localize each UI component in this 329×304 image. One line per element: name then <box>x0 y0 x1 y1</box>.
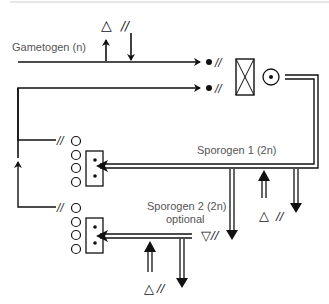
gametogen-arrow-bottom <box>18 88 200 158</box>
fusion-box <box>236 59 254 95</box>
double-slash-icon: // <box>120 19 131 33</box>
triangle-down-icon: ▽ <box>201 228 211 243</box>
svg-text://: // <box>56 135 65 146</box>
sporogen1-down-arrow-right <box>290 169 302 213</box>
gametogen-label: Gametogen (n) <box>12 41 86 53</box>
sporogen1-down-arrow-left <box>226 169 238 240</box>
spore-tetrad-2: // <box>18 162 103 254</box>
triangle-up-icon: △ <box>259 208 269 223</box>
double-slash-icon: // <box>210 229 220 242</box>
triangle-up-icon: △ <box>144 281 154 296</box>
sporogen1-up-arrow <box>258 170 270 198</box>
double-slash-icon: // <box>214 83 223 94</box>
sporogen1-label: Sporogen 1 (2n) <box>197 144 277 156</box>
gamete-dot-1 <box>206 59 212 65</box>
sporogen2-up-arrow <box>144 241 156 272</box>
spore-tetrad-1: // <box>18 88 103 187</box>
double-slash-icon: // <box>214 57 223 68</box>
gamete-dot-2 <box>206 85 212 91</box>
zygote-icon <box>263 69 279 85</box>
sporogen2-optional-label: optional <box>166 213 205 225</box>
triangle-up-icon: △ <box>101 17 112 33</box>
sporogen2-double-line <box>96 230 192 242</box>
sporogen2-down-arrow <box>176 239 188 288</box>
life-cycle-diagram: Gametogen (n) △ // // // Sporogen 1 (2n) <box>0 0 329 304</box>
sporogen2-label: Sporogen 2 (2n) <box>147 200 227 212</box>
svg-text://: // <box>56 202 65 213</box>
double-slash-icon: // <box>275 210 285 223</box>
double-slash-icon: // <box>156 282 166 295</box>
